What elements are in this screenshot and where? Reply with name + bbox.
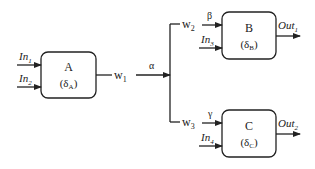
in1-label: In1 xyxy=(18,50,32,65)
w2-label: w2 xyxy=(182,17,195,33)
gamma-label: γ xyxy=(207,108,213,119)
block-b-name: B xyxy=(245,21,253,35)
block-c-name: C xyxy=(245,119,253,133)
beta-label: β xyxy=(207,10,212,21)
block-b-delta: (δB) xyxy=(240,38,258,52)
block-a-delta: (δA) xyxy=(60,77,78,91)
in2-label: In2 xyxy=(18,72,32,87)
alpha-label: α xyxy=(149,60,155,71)
w1-label: w1 xyxy=(114,68,127,84)
block-diagram: A (δA) In1 In2 w1 α w2 β In3 B (δB) Out1… xyxy=(0,0,315,169)
block-a xyxy=(41,52,96,98)
in3-label: In3 xyxy=(200,33,214,48)
in4-label: In4 xyxy=(200,131,214,146)
out1-label: Out1 xyxy=(278,19,298,34)
block-a-name: A xyxy=(64,60,73,74)
w3-label: w3 xyxy=(182,115,195,131)
out2-label: Out2 xyxy=(278,117,299,132)
block-c-delta: (δC) xyxy=(240,136,258,150)
